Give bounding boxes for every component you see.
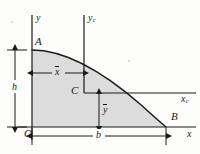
yc-axis-label: yc <box>88 13 96 24</box>
dimension-label-xbar: x <box>55 67 59 77</box>
yc-subscript: c <box>93 16 96 23</box>
dimension-label-b: b <box>96 130 101 140</box>
point-label-B: B <box>171 111 178 122</box>
x-axis-label: x <box>187 129 191 139</box>
xc-subscript: c <box>186 97 189 104</box>
dimension-label-h: h <box>12 82 17 92</box>
dimension-label-ybar: y <box>103 105 107 115</box>
point-label-C: C <box>71 85 78 96</box>
xbar-overbar: x <box>55 67 59 77</box>
centroid-figure: y yc x xc A B C O h b x y <box>0 0 200 154</box>
point-label-A: A <box>35 36 42 47</box>
point-label-O: O <box>24 128 32 139</box>
xc-axis-label: xc <box>181 94 189 105</box>
ybar-overbar: y <box>103 105 107 115</box>
y-axis-label: y <box>36 13 40 23</box>
